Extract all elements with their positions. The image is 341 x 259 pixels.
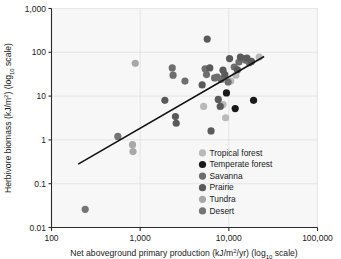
data-point [217,103,224,110]
data-point [173,120,180,127]
legend-marker [199,207,206,214]
legend-marker [199,161,206,168]
y-tick-label: 0.1 [34,179,46,189]
plot-area-background [52,9,318,228]
legend-label: Prairie [210,182,235,192]
scatter-plot: 0.010.11101001,000 1001,00010,000100,000… [0,0,341,259]
data-point [203,71,210,78]
legend-marker [199,184,206,191]
y-axis-title: Herbivore biomass (kJ/m2) (log10 scale) [3,43,15,193]
data-point [199,81,206,88]
legend-marker [199,173,206,180]
data-point [82,206,89,213]
data-point [172,113,179,120]
legend-marker [199,149,206,156]
x-tick-label: 10,000 [216,233,242,243]
legend-label: Desert [210,206,235,216]
y-tick-label: 1 [41,135,46,145]
data-point [232,105,239,112]
chart-figure: 0.010.11101001,000 1001,00010,000100,000… [0,0,341,259]
data-point [237,53,244,60]
legend-marker [199,196,206,203]
legend-label: Savanna [210,171,243,181]
data-point [200,103,207,110]
data-point [204,36,211,43]
legend-label: Tropical forest [210,148,263,158]
data-point [129,148,136,155]
data-point [226,55,233,62]
data-point [222,114,229,121]
data-point [129,141,136,148]
data-point [169,72,176,79]
data-point [181,78,188,85]
data-point [207,127,214,134]
y-tick-label: 1,000 [25,4,47,14]
data-point [161,97,168,104]
y-tick-label: 0.01 [29,223,46,233]
x-tick-label: 100 [44,233,58,243]
x-axis-title: Net aboveground primary production (kJ/m… [70,248,298,259]
data-point [132,60,139,67]
y-tick-label: 100 [32,47,46,57]
y-tick-label: 10 [37,91,47,101]
legend-label: Temperate forest [210,159,274,169]
legend-label: Tundra [210,194,237,204]
x-tick-label: 100,000 [302,233,333,243]
data-point [215,96,222,103]
data-point [223,89,230,96]
x-tick-label: 1,000 [130,233,152,243]
data-point [250,97,257,104]
data-point [169,64,176,71]
data-point [206,64,213,71]
